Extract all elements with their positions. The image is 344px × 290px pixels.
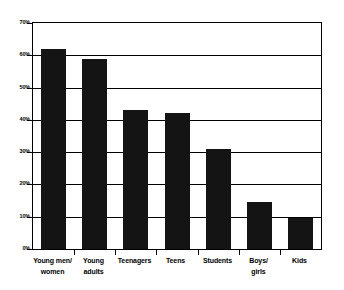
- bar: [247, 202, 272, 249]
- x-tick-mark: [198, 250, 199, 255]
- x-axis-label: Teens: [155, 256, 196, 267]
- x-axis-label: Young men/women: [32, 256, 73, 277]
- x-axis-label-line: Young men/: [32, 256, 73, 267]
- x-axis-label-line: Teenagers: [114, 256, 155, 267]
- x-axis-label-line: Boys/: [238, 256, 279, 267]
- x-axis-label-line: Teens: [155, 256, 196, 267]
- bar-chart: 0%10%20%30%40%50%60%70% Young men/womenY…: [0, 0, 344, 290]
- x-axis-label: Boys/girls: [238, 256, 279, 277]
- x-tick-mark: [239, 250, 240, 255]
- x-tick-mark: [156, 250, 157, 255]
- x-axis-label-line: women: [32, 267, 73, 278]
- bar: [165, 113, 190, 249]
- x-axis-label: Students: [197, 256, 238, 267]
- bar: [123, 110, 148, 249]
- bar: [206, 149, 231, 249]
- y-axis-tick-labels: 0%10%20%30%40%50%60%70%: [0, 22, 30, 250]
- x-axis-label: Teenagers: [114, 256, 155, 267]
- bar-series: [33, 23, 321, 249]
- x-tick-mark: [74, 250, 75, 255]
- x-axis-label-line: adults: [73, 267, 114, 278]
- x-tick-mark: [115, 250, 116, 255]
- x-axis-label-line: girls: [238, 267, 279, 278]
- x-axis-label: Youngadults: [73, 256, 114, 277]
- x-axis-label-line: Young: [73, 256, 114, 267]
- x-tick-mark: [280, 250, 281, 255]
- x-axis-label-line: Kids: [279, 256, 320, 267]
- x-axis-category-labels: Young men/womenYoungadultsTeenagersTeens…: [32, 256, 322, 286]
- bar: [288, 218, 313, 249]
- x-axis-label-line: Students: [197, 256, 238, 267]
- bar: [82, 59, 107, 249]
- x-axis-tick-marks: [32, 250, 322, 255]
- x-axis-label: Kids: [279, 256, 320, 267]
- bar: [41, 49, 66, 249]
